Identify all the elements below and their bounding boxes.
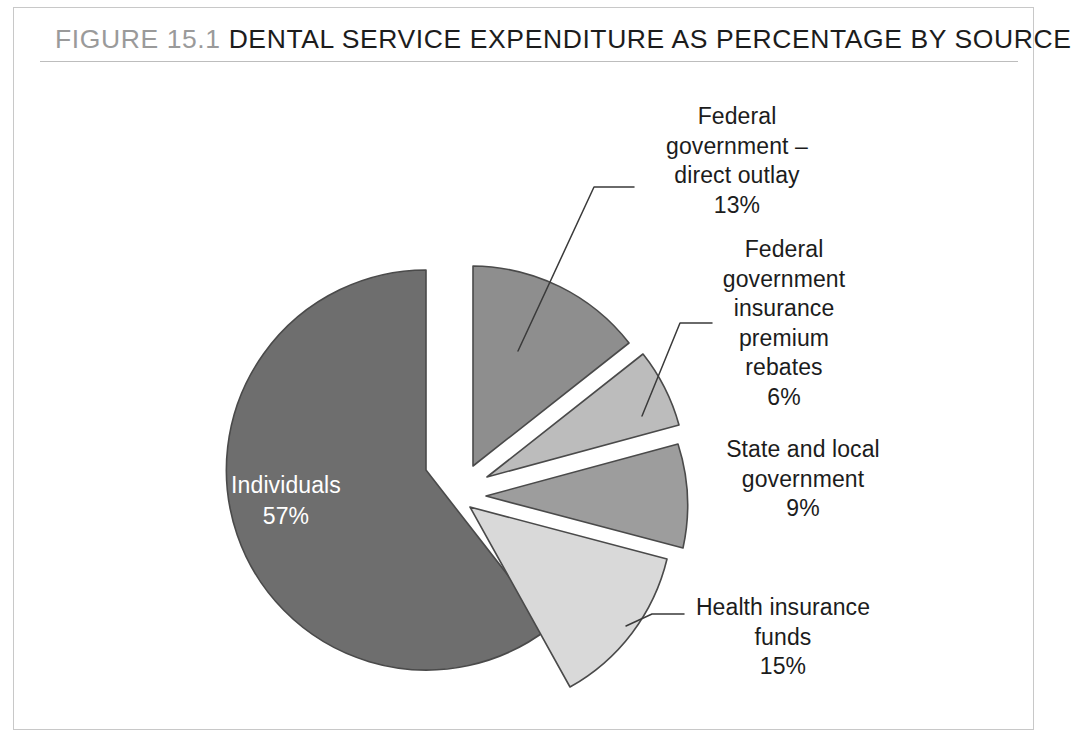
- pie-chart-area: Federal government – direct outlay 13% F…: [13, 70, 1034, 730]
- page-title: DENTAL SERVICE EXPENDITURE AS PERCENTAGE…: [229, 24, 1072, 54]
- pie-label-federal-insurance-rebates: Federal government insurance premium reb…: [670, 235, 898, 412]
- figure-title-bar: FIGURE 15.1 DENTAL SERVICE EXPENDITURE A…: [55, 22, 1015, 56]
- figure-number-label: FIGURE 15.1: [55, 24, 229, 54]
- pie-label-federal-direct-outlay: Federal government – direct outlay 13%: [613, 102, 861, 220]
- pie-label-health-insurance-funds: Health insurance funds 15%: [651, 593, 915, 682]
- title-divider-rule: [40, 61, 1018, 62]
- pie-label-individuals: Individuals 57%: [181, 470, 391, 532]
- pie-label-state-and-local-government: State and local government 9%: [685, 435, 921, 524]
